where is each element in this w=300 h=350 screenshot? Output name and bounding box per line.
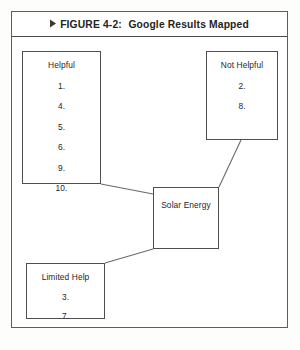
node-solar-energy[interactable]: Solar Energy [153,187,219,249]
list-item: 4. [23,101,100,111]
list-item: 1. [23,81,100,91]
connector-helpful-to-solar-energy [101,184,153,194]
node-not-helpful-items: 2. 8. [207,81,277,112]
node-solar-energy-title: Solar Energy [154,200,218,210]
list-item: 2. [207,81,277,91]
node-limited-help-title: Limited Help [27,272,104,282]
node-helpful[interactable]: Helpful 1. 4. 5. 6. 9. 10. [22,51,101,184]
connector-not-helpful-to-solar-energy [219,140,241,187]
list-item: 6. [23,142,100,152]
list-item: 10. [23,183,100,193]
list-item: 8. [207,101,277,111]
node-limited-help[interactable]: Limited Help 3. 7. [26,263,105,319]
list-item: 7. [27,311,104,321]
node-helpful-title: Helpful [23,60,100,70]
list-item: 9. [23,163,100,173]
figure-frame: FIGURE 4-2: Google Results Mapped Helpfu… [11,11,288,328]
node-not-helpful-title: Not Helpful [207,60,277,70]
node-not-helpful[interactable]: Not Helpful 2. 8. [206,51,278,140]
connector-solar-energy-to-limited-help [105,249,153,263]
node-helpful-items: 1. 4. 5. 6. 9. 10. [23,81,100,194]
list-item: 5. [23,122,100,132]
node-limited-help-items: 3. 7. [27,292,104,322]
list-item: 3. [27,292,104,302]
